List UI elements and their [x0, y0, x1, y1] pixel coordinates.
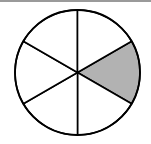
- fraction-circle-diagram: [0, 0, 151, 144]
